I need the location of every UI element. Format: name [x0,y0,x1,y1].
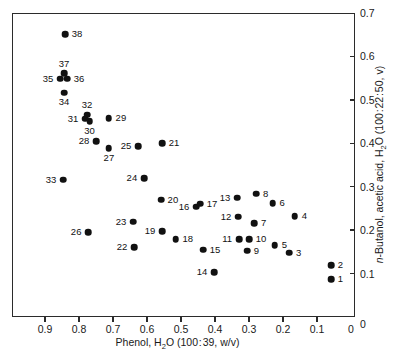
data-point-label-26: 26 [71,227,82,237]
data-point-label-7: 7 [261,219,266,229]
data-point-label-19: 19 [145,226,156,236]
x-tick-label-0.9: 0.9 [38,324,53,335]
data-point-label-37: 37 [59,59,70,69]
data-point-17 [197,200,204,207]
x-tick-label-0.4: 0.4 [208,324,223,335]
data-point-12 [235,214,242,221]
y-axis-title: n-Butanol, acetic acid, H2O (100 : 22 : … [374,13,388,317]
data-point-label-5: 5 [282,240,287,250]
x-tick-0.9 [44,317,45,322]
data-point-label-11: 11 [222,234,232,244]
data-point-label-33: 33 [46,175,57,185]
y-tick-0.3 [350,186,355,187]
data-point-6 [269,200,276,207]
data-point-5 [272,242,279,249]
data-point-21 [159,140,166,147]
data-point-33 [60,177,67,184]
data-point-26 [85,229,92,236]
data-point-27 [106,145,113,152]
x-tick-label-0.5: 0.5 [174,324,189,335]
data-point-label-28: 28 [79,136,90,146]
data-point-3 [286,250,293,257]
data-point-label-30: 30 [84,126,95,136]
data-point-24 [141,175,148,182]
x-tick-label-0.3: 0.3 [242,324,257,335]
data-point-label-2: 2 [338,260,343,270]
data-point-label-27: 27 [104,153,115,163]
data-point-label-9: 9 [254,246,259,256]
data-point-14 [211,269,218,276]
x-tick-0.7 [112,317,113,322]
data-point-label-15: 15 [210,245,221,255]
x-axis-title: Phenol, H2O (100 : 39, w/v) [0,336,355,351]
x-tick-0.8 [78,317,79,322]
data-point-34 [61,89,68,96]
y-tick-0.5 [350,99,355,100]
x-tick-label-0: 0 [348,324,354,335]
data-point-23 [130,218,137,225]
x-tick-label-0.8: 0.8 [72,324,87,335]
data-point-15 [200,247,207,254]
data-point-2 [328,262,335,269]
data-point-label-23: 23 [116,217,127,227]
data-point-13 [234,194,241,201]
data-point-18 [173,236,180,243]
x-tick-label-0.1: 0.1 [310,324,325,335]
data-point-32 [84,111,91,118]
data-point-label-31: 31 [68,114,79,124]
data-point-20 [158,197,165,204]
data-point-label-24: 24 [127,173,138,183]
y-tick-0.6 [350,56,355,57]
data-point-label-10: 10 [256,234,267,244]
data-point-label-18: 18 [183,234,194,244]
data-point-label-22: 22 [117,242,128,252]
x-tick-0.5 [180,317,181,322]
y-tick-label-0.7: 0.7 [360,8,375,19]
data-point-9 [244,247,251,254]
data-point-label-1: 1 [338,274,343,284]
data-point-label-17: 17 [207,199,218,209]
data-point-38 [62,31,69,38]
data-point-4 [292,213,299,220]
y-tick-0.4 [350,143,355,144]
x-tick-0.2 [282,317,283,322]
data-point-8 [253,190,260,197]
plot-area: 1234567891011121314151617181920212223242… [12,13,355,317]
y-tick-label-0.1: 0.1 [360,268,375,279]
y-tick-0.2 [350,229,355,230]
data-point-10 [246,236,253,243]
data-point-label-20: 20 [168,195,179,205]
data-point-37 [61,70,68,77]
data-point-label-12: 12 [221,212,232,222]
data-point-label-36: 36 [74,74,85,84]
x-tick-label-0.6: 0.6 [140,324,155,335]
data-point-label-34: 34 [59,97,70,107]
data-point-22 [131,244,138,251]
data-point-label-16: 16 [179,202,190,212]
data-point-label-35: 35 [43,74,54,84]
y-tick-0.1 [350,273,355,274]
data-point-label-14: 14 [197,267,208,277]
data-point-label-25: 25 [121,142,132,152]
y-tick-label-0.6: 0.6 [360,51,375,62]
data-point-28 [93,138,100,145]
x-tick-0.4 [214,317,215,322]
data-point-label-13: 13 [220,193,231,203]
data-point-label-32: 32 [82,101,93,111]
x-tick-0.1 [316,317,317,322]
data-point-7 [251,220,258,227]
scatter-plot-figure: 1234567891011121314151617181920212223242… [0,0,400,355]
data-point-29 [106,115,113,122]
data-point-label-38: 38 [72,30,83,40]
data-point-label-8: 8 [263,189,268,199]
x-tick-label-0.2: 0.2 [276,324,291,335]
data-point-label-4: 4 [302,211,307,221]
data-point-label-3: 3 [296,248,301,258]
y-axis-origin-label: 0 [360,319,366,330]
data-point-19 [159,228,166,235]
data-point-label-6: 6 [280,198,285,208]
data-point-label-21: 21 [169,138,180,148]
x-tick-0.6 [146,317,147,322]
data-point-25 [135,143,142,150]
data-point-1 [328,276,335,283]
